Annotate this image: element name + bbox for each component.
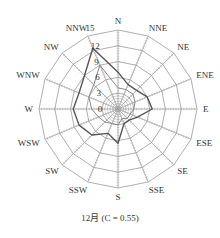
radial-tick-label: 12 [91, 41, 100, 51]
wind-rose-chart: NNNENEENEEESESESSESSSWSWWSWWWNWNWNNW 036… [0, 0, 220, 238]
direction-label-SE: SE [177, 166, 188, 176]
radial-tick-label: 3 [97, 88, 102, 98]
radial-tick-label: 0 [98, 104, 103, 114]
direction-label-WSW: WSW [18, 138, 41, 148]
direction-label-NNE: NNE [149, 23, 168, 33]
direction-label-SSE: SSE [149, 185, 165, 195]
direction-label-NW: NW [44, 42, 59, 52]
direction-label-ESE: ESE [196, 138, 213, 148]
direction-label-W: W [25, 104, 34, 114]
chart-caption: 12月 (C = 0.55) [0, 211, 220, 224]
direction-label-WNW: WNW [16, 70, 40, 80]
direction-label-SSW: SSW [69, 185, 88, 195]
direction-label-E: E [203, 104, 209, 114]
radial-tick-label: 9 [94, 57, 99, 67]
radial-tick-label: 15 [86, 23, 96, 33]
radar-spokes [39, 30, 197, 188]
radial-tick-label: 6 [95, 72, 100, 82]
direction-label-NE: NE [177, 42, 189, 52]
direction-label-N: N [115, 16, 122, 26]
direction-label-S: S [115, 192, 120, 202]
direction-label-ENE: ENE [196, 70, 214, 80]
direction-label-SW: SW [45, 166, 59, 176]
